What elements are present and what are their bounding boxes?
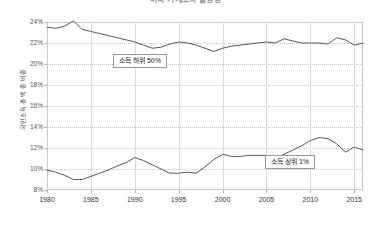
x-tick-mark xyxy=(91,190,92,193)
x-tick-label: 1990 xyxy=(127,196,143,203)
plot-area: 8%10%12%14%16%18%20%22%24% 1980198519901… xyxy=(47,22,363,190)
y-tick-label: 16% xyxy=(23,102,43,109)
y-tick-label: 22% xyxy=(23,39,43,46)
y-tick-label: 14% xyxy=(23,123,43,130)
y-tick-label: 20% xyxy=(23,60,43,67)
x-tick-mark xyxy=(354,190,355,193)
y-tick-label: 18% xyxy=(23,81,43,88)
y-tick-label: 12% xyxy=(23,144,43,151)
series-line xyxy=(47,138,363,180)
x-tick-mark xyxy=(179,190,180,193)
x-tick-mark xyxy=(266,190,267,193)
chart-root: 미국 가계소득 불평등 국민소득 총액 중 비중 8%10%12%14%16%1… xyxy=(0,0,371,226)
page-title: 미국 가계소득 불평등 xyxy=(0,0,371,4)
x-tick-label: 1980 xyxy=(39,196,55,203)
annotation-bottom-50: 소득 하위 50% xyxy=(113,54,167,68)
series-line xyxy=(47,21,363,51)
chart-title-strip: 미국 가계소득 불평등 xyxy=(0,0,371,9)
x-tick-label: 1985 xyxy=(83,196,99,203)
x-tick-label: 2000 xyxy=(215,196,231,203)
x-tick-label: 2005 xyxy=(259,196,275,203)
x-tick-label: 2015 xyxy=(346,196,362,203)
x-tick-mark xyxy=(47,190,48,193)
x-tick-mark xyxy=(135,190,136,193)
y-tick-label: 8% xyxy=(23,186,43,193)
y-tick-label: 24% xyxy=(23,18,43,25)
series-layer xyxy=(47,22,363,190)
x-tick-label: 1995 xyxy=(171,196,187,203)
annotation-top-1: 소득 상위 1% xyxy=(265,155,315,169)
x-tick-mark xyxy=(223,190,224,193)
x-tick-label: 2010 xyxy=(303,196,319,203)
x-tick-mark xyxy=(310,190,311,193)
y-tick-label: 10% xyxy=(23,165,43,172)
